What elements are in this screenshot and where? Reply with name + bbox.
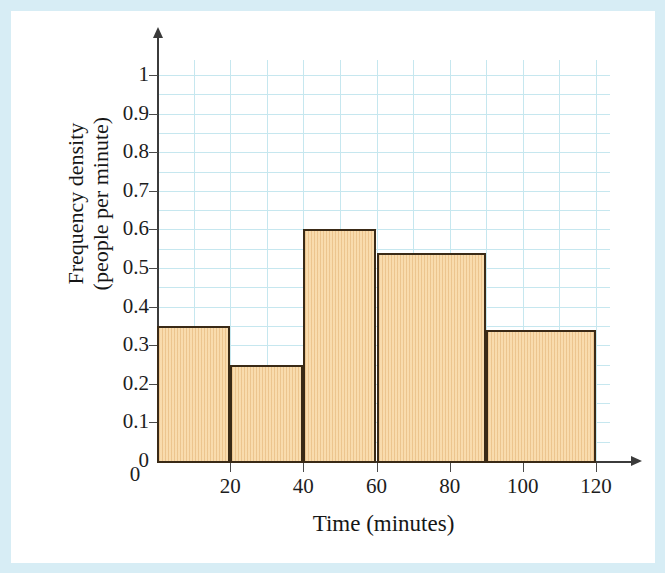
y-tick-mark (149, 191, 158, 192)
x-tick-mark (523, 463, 524, 472)
gridline-horizontal (157, 152, 610, 153)
gridline-horizontal (157, 75, 610, 76)
x-tick-label: 80 (420, 476, 480, 497)
x-tick-mark (596, 463, 597, 472)
histogram-bar (230, 365, 303, 464)
x-tick-label: 40 (273, 476, 333, 497)
histogram-figure: Frequency density (people per minute) Ti… (11, 11, 656, 563)
plot-area: 00.10.20.30.40.50.60.70.80.91 0204060801… (157, 60, 610, 463)
scanned-page-frame: Frequency density (people per minute) Ti… (0, 0, 665, 573)
x-tick-label: 60 (347, 476, 407, 497)
y-tick-label: 0.8 (123, 141, 149, 162)
gridline-horizontal (157, 249, 610, 250)
histogram-bar (157, 326, 230, 463)
histogram-bar (377, 253, 487, 463)
y-tick-label: 0.2 (123, 373, 149, 394)
gridline-vertical (596, 60, 597, 463)
gridline-horizontal (157, 191, 610, 192)
y-tick-label: 0.3 (123, 334, 149, 355)
y-tick-label: 0.9 (123, 103, 149, 124)
histogram-bar (486, 330, 596, 463)
y-axis-arrow-icon (153, 27, 163, 38)
y-tick-mark (149, 75, 158, 76)
histogram-bar (303, 229, 376, 463)
y-tick-mark (149, 229, 158, 230)
gridline-horizontal (157, 172, 610, 173)
y-axis-title: Frequency density (people per minute) (64, 54, 113, 354)
y-tick-label: 1 (139, 64, 150, 85)
x-tick-mark (450, 463, 451, 472)
gridline-horizontal (157, 210, 610, 211)
x-axis-title: Time (minutes) (157, 511, 610, 537)
y-tick-mark (149, 114, 158, 115)
y-tick-mark (149, 268, 158, 269)
gridline-horizontal (157, 229, 610, 230)
y-tick-mark (149, 152, 158, 153)
gridline-horizontal (157, 114, 610, 115)
y-tick-label: 0.6 (123, 218, 149, 239)
x-tick-label: 0 (105, 464, 165, 485)
y-tick-label: 0.4 (123, 296, 149, 317)
x-tick-label: 20 (200, 476, 260, 497)
x-tick-mark (377, 463, 378, 472)
y-tick-mark (149, 307, 158, 308)
gridline-horizontal (157, 133, 610, 134)
y-axis-title-line1: Frequency density (64, 54, 89, 354)
y-tick-label: 0.7 (123, 180, 149, 201)
gridline-horizontal (157, 94, 610, 95)
y-tick-label: 0.5 (123, 257, 149, 278)
y-axis-title-line2: (people per minute) (89, 54, 114, 354)
page-white-area: Frequency density (people per minute) Ti… (11, 11, 655, 563)
x-tick-mark (303, 463, 304, 472)
x-tick-mark (230, 463, 231, 472)
x-tick-label: 100 (493, 476, 553, 497)
y-tick-label: 0.1 (123, 411, 149, 432)
x-tick-label: 120 (566, 476, 626, 497)
x-axis-arrow-icon (631, 456, 642, 466)
